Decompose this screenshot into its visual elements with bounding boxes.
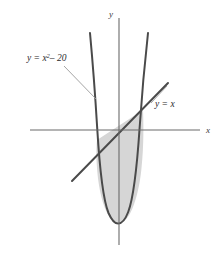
diagram-svg: y x y = x2– 20 y = x	[0, 0, 223, 256]
y-axis-label: y	[108, 9, 113, 19]
parabola-label-suffix: – 20	[49, 53, 67, 63]
parabola-label-prefix: y = x	[26, 53, 47, 63]
line-equation-label: y = x	[154, 99, 175, 109]
parabola-equation-label: y = x2– 20	[26, 52, 67, 64]
figure-container: y x y = x2– 20 y = x	[0, 0, 223, 256]
x-axis-label: x	[205, 125, 210, 135]
parabola-leader-line	[64, 66, 96, 99]
